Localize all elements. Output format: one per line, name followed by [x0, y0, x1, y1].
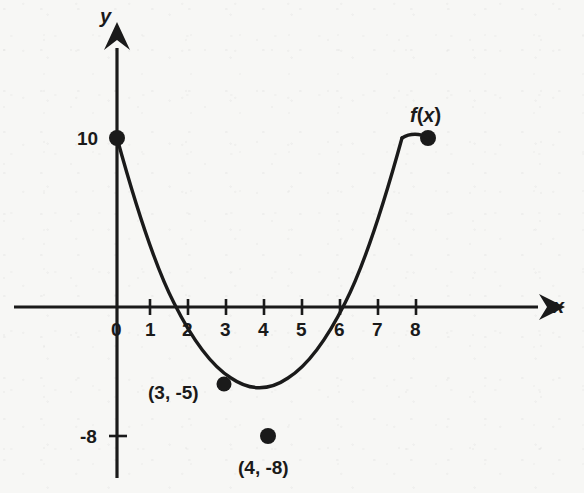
function-label-f: f — [410, 104, 417, 126]
curve-endpoint-join — [402, 134, 428, 138]
parabola-curve — [117, 138, 402, 388]
data-point-3-minus5 — [217, 377, 232, 392]
x-tick-label-8: 8 — [410, 320, 421, 339]
x-tick-label-3: 3 — [220, 320, 231, 339]
x-tick-label-0: 0 — [111, 320, 122, 339]
graph-figure: y x 10 -8 0 1 2 3 4 5 6 7 8 (3, -5) (4, … — [0, 0, 584, 493]
y-tick-label-10: 10 — [77, 129, 98, 148]
x-tick-label-5: 5 — [296, 320, 307, 339]
y-axis-label: y — [100, 6, 111, 26]
x-tick-label-7: 7 — [372, 320, 383, 339]
data-point-4-minus8 — [260, 428, 276, 444]
x-tick-label-1: 1 — [145, 320, 156, 339]
y-tick-label-minus8: -8 — [80, 427, 97, 446]
x-tick-label-2: 2 — [182, 320, 193, 339]
x-tick-label-4: 4 — [258, 320, 269, 339]
coordinate-plane-svg — [0, 0, 584, 493]
x-axis-label: x — [553, 296, 564, 316]
point-label-4-minus8: (4, -8) — [238, 458, 289, 477]
data-point-0-10 — [109, 130, 125, 146]
function-label-close-paren: ) — [434, 104, 441, 126]
point-label-3-minus5: (3, -5) — [148, 383, 199, 402]
function-label-var: x — [423, 104, 434, 126]
function-label: f(x) — [410, 105, 441, 125]
x-tick-label-6: 6 — [334, 320, 345, 339]
